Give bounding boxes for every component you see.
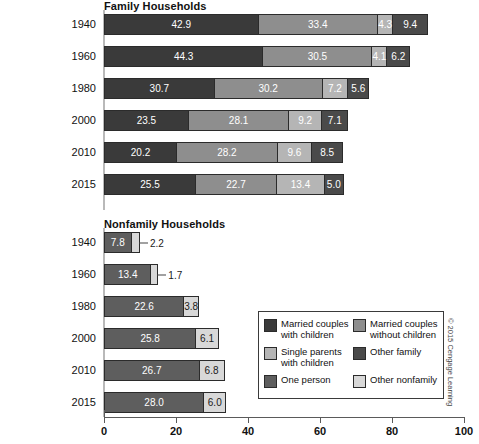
bar-family-1940: 42.933.44.39.4: [104, 14, 428, 35]
legend-swatch-married-with-children: [264, 319, 277, 332]
x-tick-label-0: 0: [101, 425, 107, 437]
segment-value-label: 20.2: [131, 147, 150, 158]
bar-nonfamily-2010: 26.76.8: [104, 360, 225, 381]
legend-swatch-other-family: [353, 347, 366, 360]
segment-value-label: 5.6: [351, 83, 365, 94]
bar-segment: 6.1: [196, 329, 218, 348]
bar-segment: 28.0: [105, 393, 204, 412]
legend-item: Married coupleswith children: [264, 318, 354, 342]
segment-value-label: 33.4: [308, 19, 327, 30]
bar-segment: 5.6: [348, 79, 368, 98]
segment-value-label: 44.3: [174, 51, 193, 62]
callout-leader-line: [139, 242, 148, 243]
bar-segment: 6.8: [200, 361, 224, 380]
segment-value-label: 9.2: [298, 115, 312, 126]
segment-value-label: 22.7: [226, 179, 245, 190]
legend-swatch-single-parents: [264, 347, 277, 360]
bar-segment: 9.2: [289, 111, 322, 130]
bar-segment: 1.7: [151, 265, 157, 284]
legend-item-label: Married coupleswithout children: [370, 318, 438, 340]
y-axis-label-2010: 2010: [24, 360, 96, 381]
segment-value-label: 23.5: [137, 115, 156, 126]
legend-item-label: Married coupleswith children: [281, 318, 349, 340]
segment-value-label: 5.0: [327, 179, 341, 190]
segment-value-label: 30.5: [308, 51, 327, 62]
segment-value-label: 9.4: [403, 19, 417, 30]
bar-segment: 4.3: [378, 15, 393, 34]
nonfamily-households-title: Nonfamily Households: [104, 218, 225, 230]
x-tick-0: [104, 417, 105, 423]
bar-segment: 5.0: [325, 175, 343, 194]
bar-nonfamily-1980: 22.63.8: [104, 296, 199, 317]
bar-segment: 26.7: [105, 361, 200, 380]
family-households-title: Family Households: [104, 0, 207, 12]
legend-item-label: Other family: [370, 346, 421, 357]
legend-item: Married coupleswithout children: [353, 318, 443, 342]
bar-segment: 22.7: [196, 175, 277, 194]
bar-nonfamily-1960: 13.41.7: [104, 264, 158, 285]
x-tick-label-40: 40: [242, 425, 254, 437]
bar-segment: 30.7: [105, 79, 215, 98]
segment-value-label: 4.3: [378, 19, 392, 30]
bar-family-2000: 23.528.19.27.1: [104, 110, 348, 131]
legend-swatch-other-nonfamily: [353, 375, 366, 388]
x-tick-60: [320, 417, 321, 423]
y-axis-label-1960: 1960: [24, 264, 96, 285]
bar-segment: 25.5: [105, 175, 196, 194]
bar-segment: 28.1: [189, 111, 289, 130]
x-tick-label-60: 60: [314, 425, 326, 437]
legend-item: Single parentswith children: [264, 346, 354, 370]
bar-segment: 4.1: [372, 47, 387, 66]
x-tick-label-100: 100: [455, 425, 473, 437]
bar-family-1960: 44.330.54.16.2: [104, 46, 410, 67]
bar-segment: 8.5: [312, 143, 342, 162]
legend-swatch-one-person: [264, 375, 277, 388]
nonfamily-panel-baseline: [103, 228, 105, 417]
segment-value-label: 6.1: [200, 333, 214, 344]
x-tick-label-80: 80: [386, 425, 398, 437]
segment-value-label: 25.8: [140, 333, 159, 344]
y-axis-label-2015: 2015: [24, 174, 96, 195]
bar-segment: 7.2: [323, 79, 349, 98]
y-axis-label-1940: 1940: [24, 14, 96, 35]
legend-item-label: Single parentswith children: [281, 346, 342, 368]
segment-value-label: 7.1: [328, 115, 342, 126]
bar-segment: 9.4: [393, 15, 427, 34]
y-axis-label-1960: 1960: [24, 46, 96, 67]
callout-leader-line: [157, 274, 166, 275]
segment-value-label: 6.8: [205, 365, 219, 376]
bar-segment: 30.2: [215, 79, 323, 98]
bar-segment: 6.0: [204, 393, 225, 412]
y-axis-label-1980: 1980: [24, 296, 96, 317]
bar-segment: 7.8: [105, 233, 132, 252]
x-tick-40: [248, 417, 249, 423]
segment-value-label: 7.2: [328, 83, 342, 94]
bar-nonfamily-2015: 28.06.0: [104, 392, 226, 413]
x-tick-label-20: 20: [170, 425, 182, 437]
segment-value-label: 13.4: [118, 269, 137, 280]
x-axis-line: [104, 417, 464, 418]
bar-segment: 9.6: [278, 143, 312, 162]
segment-value-label: 22.6: [134, 301, 153, 312]
bar-family-2010: 20.228.29.68.5: [104, 142, 343, 163]
segment-value-label: 8.5: [320, 147, 334, 158]
segment-callout-label: 2.2: [139, 237, 164, 248]
x-tick-20: [176, 417, 177, 423]
bar-segment: 23.5: [105, 111, 189, 130]
y-axis-label-1980: 1980: [24, 78, 96, 99]
segment-value-label: 9.6: [287, 147, 301, 158]
bar-segment: 22.6: [105, 297, 184, 316]
bar-family-2015: 25.522.713.45.0: [104, 174, 344, 195]
legend-swatch-married-without-children: [353, 319, 366, 332]
segment-value-label: 26.7: [142, 365, 161, 376]
segment-value-label: 42.9: [172, 19, 191, 30]
segment-value-label: 1.7: [168, 269, 182, 280]
bar-segment: 28.2: [177, 143, 278, 162]
x-tick-100: [464, 417, 465, 423]
x-tick-80: [392, 417, 393, 423]
legend-column-left: Married coupleswith childrenSingle paren…: [264, 318, 354, 402]
segment-callout-label: 1.7: [157, 269, 182, 280]
legend-item: One person: [264, 374, 354, 398]
segment-value-label: 2.2: [150, 237, 164, 248]
bar-segment: 20.2: [105, 143, 177, 162]
